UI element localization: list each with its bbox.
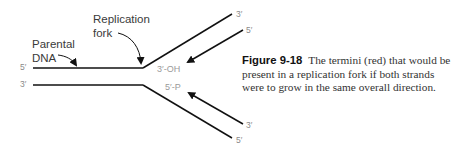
lower-arrow-3prime-label: 3′ [246, 120, 252, 130]
upper-arrow-5prime-label: 5′ [246, 25, 252, 35]
lower-branch-strand [143, 85, 232, 138]
figure-caption: Figure 9-18The termini (red) that would … [242, 54, 452, 95]
upper-branch-strand [143, 14, 232, 68]
upper-strand-3prime-label: 3′ [236, 9, 242, 19]
lower-new-strand-arrow [189, 93, 243, 124]
upper-new-strand-arrow [188, 30, 243, 62]
figure-number: Figure 9-18 [242, 54, 302, 66]
bottom-left-3prime-label: 3′ [20, 79, 26, 89]
terminus-3oh-label: 3′-OH [157, 64, 180, 74]
top-left-5prime-label: 5′ [20, 62, 26, 72]
terminus-5p-label: 5′-P [165, 82, 181, 92]
replication-fork-label: Replication fork [93, 12, 150, 40]
lower-strand-5prime-label: 5′ [236, 135, 242, 145]
parental-dna-label: Parental DNA [32, 37, 75, 65]
